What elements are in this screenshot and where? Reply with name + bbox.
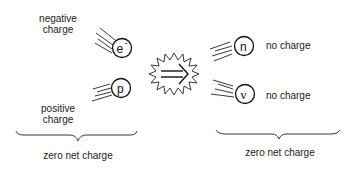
left-brace <box>16 131 137 141</box>
right-brace <box>216 130 340 139</box>
neutrino-no-charge-label: no charge <box>266 90 310 101</box>
neutron-motion-lines-icon <box>210 42 232 61</box>
proton-motion-lines-icon <box>92 84 112 101</box>
left-zero-net-charge-label: zero net charge <box>28 150 128 161</box>
starburst-icon <box>149 53 199 95</box>
proton-symbol: p <box>117 82 124 96</box>
negative-charge-label: negative charge <box>33 13 83 35</box>
neutron-no-charge-label: no charge <box>266 40 310 51</box>
neutrino-motion-lines-icon <box>211 80 234 97</box>
electron-superscript: - <box>125 38 128 48</box>
neutron-symbol: n <box>240 40 247 54</box>
electron-symbol: e <box>117 42 124 56</box>
positive-charge-label: positive charge <box>33 103 83 125</box>
neutrino-symbol: ν <box>241 87 247 102</box>
right-zero-net-charge-label: zero net charge <box>230 147 330 158</box>
